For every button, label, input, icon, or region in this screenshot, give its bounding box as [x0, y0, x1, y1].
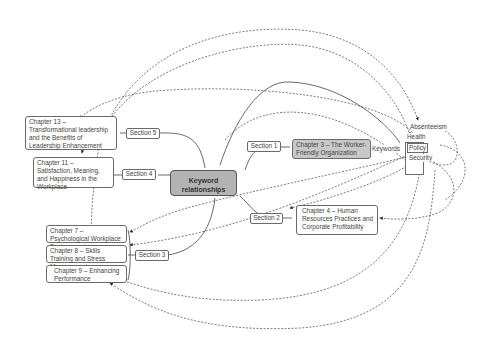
chapter-3-node[interactable]: Chapter 3 – The Worker-Friendly Organiza…	[292, 139, 371, 159]
chapter-3-label: Chapter 3 – The Worker-Friendly Organiza…	[296, 141, 366, 156]
chapter-4-node[interactable]: Chapter 4 – Human Resources Practices an…	[296, 205, 378, 235]
section-1-label: Section 1	[251, 142, 278, 149]
keyword-health[interactable]: Health	[407, 133, 425, 141]
chapter-11-label: Chapter 11 – Satisfaction, Meaning, and …	[37, 159, 100, 190]
section-1-node[interactable]: Section 1	[247, 141, 281, 152]
chapter-9-label: Chapter 9 – Enhancing Performance	[54, 267, 119, 282]
section-4-label: Section 4	[126, 170, 153, 177]
keyword-security[interactable]: Security	[409, 154, 432, 162]
chapter-4-label: Chapter 4 – Human Resources Practices an…	[302, 207, 373, 230]
chapter-9-node[interactable]: Chapter 9 – Enhancing Performance	[46, 265, 127, 283]
section-5-label: Section 5	[130, 129, 157, 136]
section-3-node[interactable]: Section 3	[135, 250, 169, 261]
keyword-relationships-node[interactable]: Keyword relationships	[170, 170, 237, 196]
chapter-11-node[interactable]: Chapter 11 – Satisfaction, Meaning, and …	[33, 157, 114, 188]
section-2-node[interactable]: Section 2	[250, 213, 283, 224]
keywords-label: Keywords	[372, 145, 400, 153]
chapter-7-node[interactable]: Chapter 7 – Psychological Workplace Envi…	[46, 225, 127, 243]
section-2-label: Section 2	[253, 214, 280, 221]
chapter-13-node[interactable]: Chapter 13 – Transformational leadership…	[25, 116, 117, 150]
section-3-label: Section 3	[139, 251, 166, 258]
section-5-node[interactable]: Section 5	[126, 128, 160, 139]
center-label: Keyword relationships	[182, 177, 226, 193]
chapter-13-label: Chapter 13 – Transformational leadership…	[29, 118, 108, 149]
section-4-node[interactable]: Section 4	[122, 169, 156, 180]
keyword-absenteeism[interactable]: Absenteeism	[410, 123, 447, 131]
keyword-policy[interactable]: Policy	[407, 143, 428, 153]
chapter-8-node[interactable]: Chapter 8 – Skills Training and Stress M…	[46, 245, 127, 263]
